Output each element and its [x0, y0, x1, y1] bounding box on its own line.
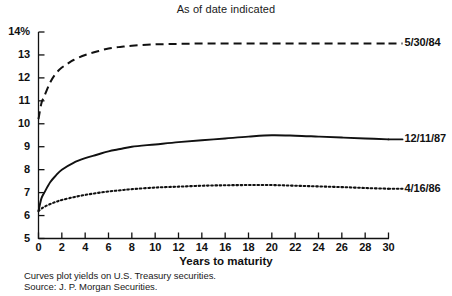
- y-tick-label: 7: [0, 186, 30, 198]
- x-tick-label: 2: [50, 241, 74, 253]
- footnote-line-1: Curves plot yields on U.S. Treasury secu…: [24, 270, 216, 281]
- x-tick-marks: [39, 233, 389, 239]
- series-line-4-16-86: [39, 185, 389, 211]
- yield-curve-figure: As of date indicated 567891011121314% 02…: [0, 0, 452, 296]
- x-tick-label: 4: [73, 241, 97, 253]
- y-tick-label: 12: [0, 71, 30, 83]
- footnote-line-2: Source: J. P. Morgan Securities.: [24, 281, 157, 292]
- x-tick-label: 26: [330, 241, 354, 253]
- y-tick-label: 10: [0, 117, 30, 129]
- series-label-5-30-84: 5/30/84: [405, 36, 441, 48]
- x-tick-label: 10: [143, 241, 167, 253]
- x-tick-label: 28: [353, 241, 377, 253]
- x-tick-label: 30: [377, 241, 401, 253]
- x-tick-label: 12: [167, 241, 191, 253]
- series-paths: [39, 43, 389, 211]
- y-tick-label: 8: [0, 163, 30, 175]
- series-line-12-11-87: [39, 135, 389, 211]
- series-label-leaders: [389, 43, 403, 188]
- x-tick-label: 20: [260, 241, 284, 253]
- y-tick-label: 6: [0, 209, 30, 221]
- y-tick-label: 11: [0, 94, 30, 106]
- x-tick-label: 16: [213, 241, 237, 253]
- y-tick-label: 9: [0, 140, 30, 152]
- y-tick-label: 14%: [0, 25, 30, 37]
- x-tick-label: 8: [120, 241, 144, 253]
- series-label-4-16-86: 4/16/86: [405, 182, 441, 194]
- y-tick-label: 13: [0, 48, 30, 60]
- series-label-12-11-87: 12/11/87: [405, 132, 446, 144]
- x-axis-title: Years to maturity: [0, 255, 452, 267]
- y-tick-label: 5: [0, 232, 30, 244]
- x-tick-label: 24: [307, 241, 331, 253]
- x-tick-label: 18: [237, 241, 261, 253]
- x-tick-label: 6: [97, 241, 121, 253]
- series-line-5-30-84: [39, 43, 389, 119]
- x-tick-label: 14: [190, 241, 214, 253]
- axes-lines: [39, 32, 390, 239]
- x-tick-label: 0: [27, 241, 51, 253]
- x-tick-label: 22: [283, 241, 307, 253]
